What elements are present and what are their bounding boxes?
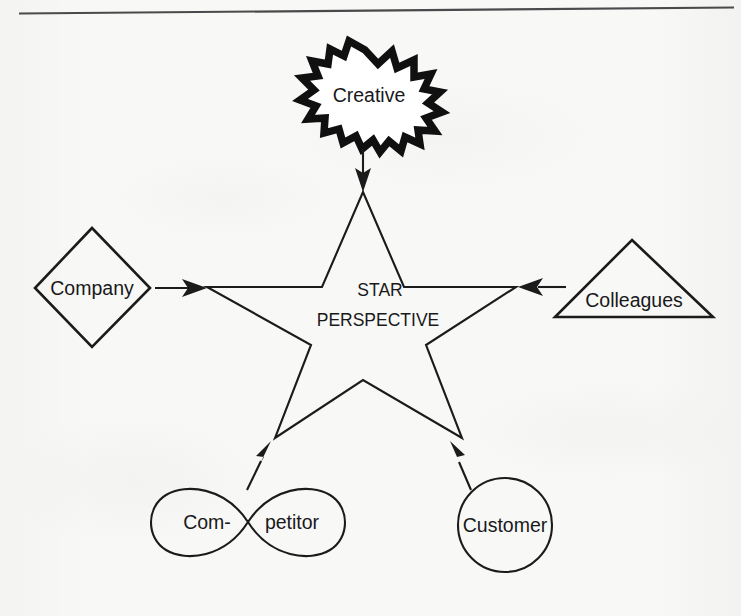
arrow-company-to-star [155,279,207,297]
star-perspective-diagram: STAR PERSPECTIVE Creative Company Collea… [0,0,741,616]
creative-label: Creative [333,84,406,106]
arrow-creative-to-star [355,149,371,192]
top-divider-rule [19,8,734,14]
arrow-customer-to-star [450,441,471,490]
competitor-label-part1: Com- [183,511,231,533]
competitor-label-part2: petitor [265,511,320,533]
company-label: Company [50,277,134,299]
competitor-node: Com- petitor [151,489,345,556]
colleagues-node: Colleagues [555,240,713,317]
arrow-competitor-to-star [247,441,271,490]
company-node: Company [35,228,150,347]
colleagues-label: Colleagues [585,289,683,311]
center-star-node: STAR PERSPECTIVE [207,192,516,438]
arrowhead-up-right-icon [256,441,271,466]
arrow-colleagues-to-star [518,278,566,296]
star-label-line2: PERSPECTIVE [317,310,440,330]
diagram-page: STAR PERSPECTIVE Creative Company Collea… [0,0,741,616]
star-label-line1: STAR [357,280,402,300]
creative-node: Creative [300,41,442,152]
customer-node: Customer [458,478,552,572]
customer-label: Customer [463,514,548,536]
arrowhead-up-left-icon [450,441,465,466]
